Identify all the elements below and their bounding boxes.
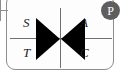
terminal-label-a: A — [80, 16, 88, 29]
wire-stub-icon — [0, 10, 8, 11]
schematic-canvas: S A T C P — [0, 0, 122, 75]
terminal-label-c: C — [80, 46, 89, 59]
pin-badge[interactable]: P — [101, 1, 120, 20]
terminal-label-s: S — [23, 16, 30, 29]
lead-vertical — [60, 8, 61, 68]
terminal-label-t: T — [23, 46, 30, 59]
lead-horizontal — [10, 38, 112, 39]
pin-badge-label: P — [107, 5, 114, 17]
